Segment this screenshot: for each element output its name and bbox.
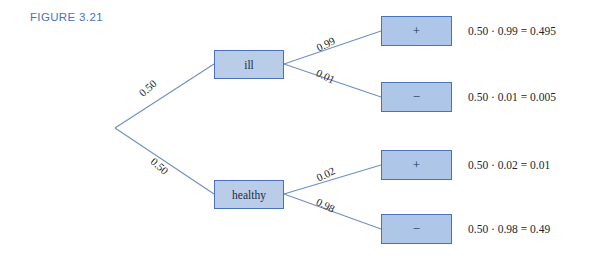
- leaf-node-negative-healthy: −: [381, 214, 452, 244]
- equation-negative-ill: 0.50 · 0.01 = 0.005: [468, 91, 556, 103]
- leaf-symbol: +: [413, 157, 420, 173]
- figure-label: FIGURE 3.21: [30, 11, 103, 23]
- edge-root-to-ill: [115, 64, 214, 128]
- leaf-symbol: +: [413, 23, 420, 39]
- node-ill-label: ill: [244, 59, 254, 71]
- equation-positive-healthy: 0.50 · 0.02 = 0.01: [468, 159, 550, 171]
- node-healthy-label: healthy: [232, 189, 266, 201]
- probability-tree-figure: FIGURE 3.21 ill healthy + − + − 0.50 · 0…: [0, 0, 592, 259]
- leaf-symbol: −: [413, 89, 420, 105]
- leaf-symbol: −: [413, 221, 420, 237]
- leaf-node-positive-ill: +: [381, 16, 452, 46]
- node-ill: ill: [214, 50, 284, 79]
- leaf-node-negative-ill: −: [381, 82, 452, 112]
- equation-negative-healthy: 0.50 · 0.98 = 0.49: [468, 223, 550, 235]
- equation-positive-ill: 0.50 · 0.99 = 0.495: [468, 25, 556, 37]
- node-healthy: healthy: [214, 180, 284, 209]
- tree-edges: [0, 0, 592, 259]
- leaf-node-positive-healthy: +: [381, 150, 452, 180]
- edge-root-to-healthy: [115, 128, 214, 194]
